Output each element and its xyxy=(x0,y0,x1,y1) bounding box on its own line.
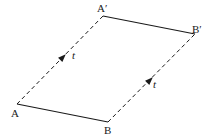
diagram-svg: A′ B′ A B t t xyxy=(0,0,210,140)
vertex-label-b: B xyxy=(104,124,111,136)
vector-label-t-right: t xyxy=(153,78,157,90)
vertex-label-a-prime: A′ xyxy=(97,2,107,14)
vertex-label-a: A xyxy=(11,107,19,119)
translation-diagram: A′ B′ A B t t xyxy=(0,0,210,140)
segment-a-prime-b-prime xyxy=(103,16,195,34)
vertex-label-b-prime: B′ xyxy=(192,23,202,35)
segment-ab xyxy=(17,104,108,122)
vector-label-t-left: t xyxy=(72,49,76,61)
dashed-vector-a-to-a-prime xyxy=(17,16,103,104)
